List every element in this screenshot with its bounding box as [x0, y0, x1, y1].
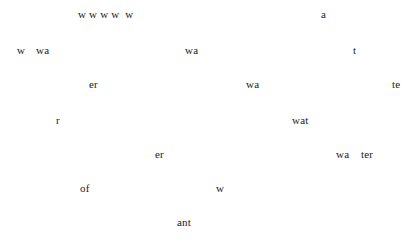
- text-fragment: ant: [177, 217, 191, 228]
- text-fragment: w: [216, 183, 224, 194]
- text-fragment: wa: [36, 45, 49, 56]
- text-fragment: of: [80, 183, 90, 194]
- text-fragment-canvas: w w w w wawwawaterwaterwaterwaterofwant: [0, 0, 415, 248]
- text-fragment: wa: [185, 45, 198, 56]
- text-fragment: wa: [246, 79, 259, 90]
- text-fragment: w: [17, 45, 25, 56]
- text-fragment: te: [392, 79, 400, 90]
- text-fragment: w w w w w: [78, 9, 133, 20]
- text-fragment: er: [89, 79, 98, 90]
- text-fragment: wa: [336, 149, 349, 160]
- text-fragment: t: [353, 45, 356, 56]
- text-fragment: r: [56, 115, 60, 126]
- text-fragment: er: [155, 149, 164, 160]
- text-fragment: ter: [361, 149, 373, 160]
- text-fragment: wat: [292, 115, 308, 126]
- text-fragment: a: [321, 9, 326, 20]
